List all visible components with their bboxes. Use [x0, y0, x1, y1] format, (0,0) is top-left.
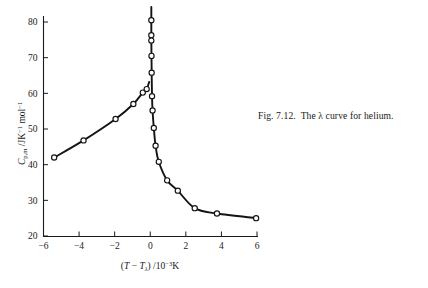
- y-tick-label: 20: [28, 231, 38, 241]
- y-tick-label: 60: [28, 89, 38, 99]
- x-tick-label: 0: [148, 241, 153, 251]
- svg-text:(T − Tλ) /10−3K: (T − Tλ) /10−3K: [121, 260, 179, 272]
- y-tick-label: 40: [28, 160, 38, 170]
- svg-text:Cp,m /JK−1 mol−1: Cp,m /JK−1 mol−1: [16, 102, 28, 165]
- x-tick-label: −6: [38, 241, 48, 251]
- data-point-marker: [192, 206, 197, 211]
- y-tick-label: 70: [28, 53, 38, 63]
- data-point-marker: [149, 70, 154, 75]
- y-tick-label: 80: [28, 17, 38, 27]
- y-axis-title: Cp,m /JK−1 mol−1: [16, 102, 28, 165]
- y-tick-label: 50: [28, 124, 38, 134]
- data-point-marker: [175, 188, 180, 193]
- data-point-marker: [149, 18, 154, 23]
- curve-above-lambda: [151, 7, 256, 218]
- lambda-curve-figure: 20304050607080 −6−4−20246 Cp,m /JK−1 mol…: [0, 0, 270, 288]
- data-point-markers: [52, 18, 259, 221]
- data-point-marker: [149, 53, 154, 58]
- data-point-marker: [52, 155, 57, 160]
- plot-svg: 20304050607080 −6−4−20246 Cp,m /JK−1 mol…: [0, 0, 270, 288]
- data-point-marker: [214, 211, 219, 216]
- y-tick-label: 30: [28, 196, 38, 206]
- x-tick-label: −2: [110, 241, 120, 251]
- data-point-marker: [113, 116, 118, 121]
- x-tick-label: −4: [74, 241, 84, 251]
- data-point-marker: [165, 178, 170, 183]
- data-point-marker: [254, 216, 259, 221]
- data-point-marker: [149, 94, 154, 99]
- curve-below-lambda: [54, 82, 149, 158]
- data-point-marker: [149, 33, 154, 38]
- y-axis-ticks: [44, 22, 49, 236]
- y-axis-tick-labels: 20304050607080: [28, 17, 38, 241]
- x-axis-title: (T − Tλ) /10−3K: [121, 260, 179, 272]
- data-point-marker: [151, 125, 156, 130]
- x-tick-label: 6: [255, 241, 260, 251]
- caption-figure-number: Fig. 7.12.: [258, 110, 296, 121]
- figure-caption: Fig. 7.12. The λ curve for helium.: [258, 110, 426, 123]
- x-axis-tick-labels: −6−4−20246: [38, 241, 259, 251]
- x-axis-ticks: [44, 232, 258, 237]
- data-point-marker: [144, 86, 149, 91]
- x-tick-label: 2: [183, 241, 188, 251]
- x-tick-label: 4: [219, 241, 224, 251]
- data-point-marker: [149, 38, 154, 43]
- data-point-marker: [156, 159, 161, 164]
- figure-page: 20304050607080 −6−4−20246 Cp,m /JK−1 mol…: [0, 0, 428, 288]
- data-point-marker: [150, 108, 155, 113]
- data-point-marker: [153, 143, 158, 148]
- caption-text: The λ curve for helium.: [301, 110, 394, 121]
- data-point-marker: [81, 138, 86, 143]
- data-point-marker: [131, 101, 136, 106]
- data-curve: [54, 7, 256, 218]
